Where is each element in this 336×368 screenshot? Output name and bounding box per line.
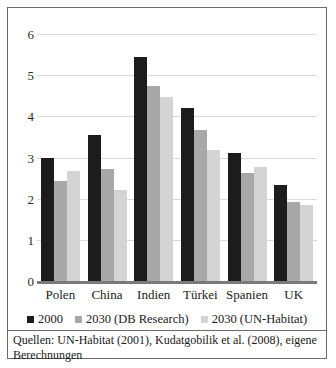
chart-legend: 20002030 (DB Research)2030 (UN-Habitat) <box>8 309 326 329</box>
bar-group <box>134 34 173 281</box>
legend-label: 2030 (DB Research) <box>86 312 189 326</box>
chart-figure: 0123456 PolenChinaIndienTürkeiSpanienUK … <box>7 7 327 359</box>
legend-item: 2030 (UN-Habitat) <box>201 312 307 326</box>
bar <box>194 130 207 281</box>
bar <box>228 153 241 281</box>
x-tick-label: Türkei <box>177 287 224 303</box>
source-divider <box>8 330 326 331</box>
bar-group <box>228 34 267 281</box>
legend-swatch-icon <box>201 316 208 323</box>
bar <box>207 150 220 281</box>
y-tick-label: 0 <box>14 275 34 288</box>
y-tick-label: 1 <box>14 234 34 247</box>
bar <box>241 173 254 281</box>
bar-group <box>181 34 220 281</box>
bar <box>88 135 101 281</box>
source-note: Quellen: UN-Habitat (2001), Kudatgobilik… <box>13 333 321 362</box>
x-axis: PolenChinaIndienTürkeiSpanienUK <box>37 287 317 307</box>
bar <box>67 171 80 281</box>
bars-layer <box>37 34 317 281</box>
x-tick-label: Polen <box>37 287 84 303</box>
y-tick-label: 4 <box>14 110 34 123</box>
y-tick-label: 2 <box>14 193 34 206</box>
y-axis: 0123456 <box>12 34 34 282</box>
bar-group <box>88 34 127 281</box>
legend-item: 2000 <box>27 312 63 326</box>
bar <box>54 181 67 281</box>
bar <box>160 97 173 281</box>
bar <box>101 169 114 281</box>
bar <box>147 86 160 281</box>
x-axis-line <box>37 281 317 284</box>
legend-swatch-icon <box>27 316 34 323</box>
y-tick-label: 3 <box>14 152 34 165</box>
legend-label: 2030 (UN-Habitat) <box>212 312 307 326</box>
legend-item: 2030 (DB Research) <box>75 312 189 326</box>
x-tick-label: UK <box>270 287 317 303</box>
bar <box>300 205 313 281</box>
x-tick-label: China <box>84 287 131 303</box>
y-tick-label: 5 <box>14 69 34 82</box>
x-tick-label: Spanien <box>224 287 271 303</box>
legend-label: 2000 <box>38 312 63 326</box>
x-tick-label: Indien <box>130 287 177 303</box>
bar <box>41 158 54 282</box>
legend-swatch-icon <box>75 316 82 323</box>
bar <box>287 202 300 281</box>
bar-group <box>41 34 80 281</box>
bar <box>114 190 127 281</box>
bar <box>134 57 147 281</box>
bar <box>274 185 287 281</box>
bar <box>254 167 267 281</box>
bar-group <box>274 34 313 281</box>
bar <box>181 108 194 281</box>
y-tick-label: 6 <box>14 28 34 41</box>
